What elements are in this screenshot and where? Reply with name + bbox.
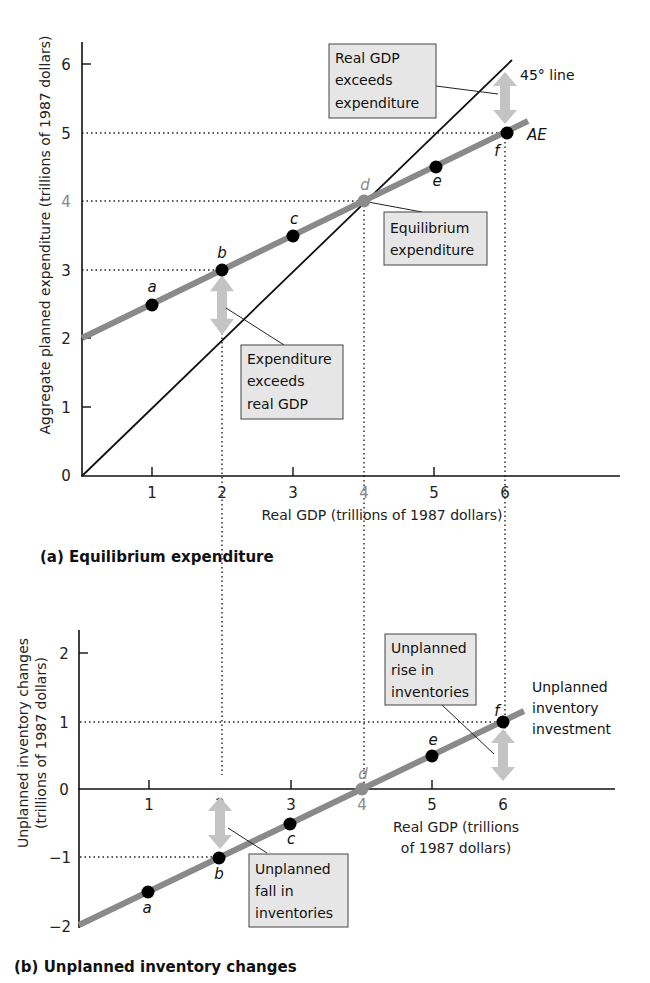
panel-b-title: (b) Unplanned inventory changes [14,958,297,976]
x-tick-label: 3 [288,484,298,502]
y-tick-label: 5 [61,125,71,143]
point-label-c: c [290,210,299,228]
y-axis-title-b-line2: (trillions of 1987 dollars) [33,657,49,829]
point-label-e: e [428,731,437,749]
svg-text:Equilibrium: Equilibrium [390,220,469,236]
gap-arrow-icon [493,72,517,124]
svg-text:exceeds: exceeds [335,72,393,88]
x-tick-label: 1 [147,484,157,502]
svg-text:Expenditure: Expenditure [247,351,332,367]
x-tick-label: 1 [144,796,154,814]
y-tick-label: 2 [59,645,69,663]
svg-text:inventories: inventories [255,905,333,921]
box-unplanned-fall: Unplanned fall in inventories [249,854,348,927]
point-label-d: d [360,176,370,194]
svg-text:expenditure: expenditure [335,95,419,111]
x-tick-label: 4 [357,796,367,814]
x-ticks-a [152,467,434,476]
gap-arrow-icon [210,275,234,335]
point-label-a: a [142,899,151,917]
x-axis-title-b: Real GDP (trillions [393,819,519,835]
gap-arrow-icon [491,729,515,781]
y-tick-label: 0 [61,467,71,485]
y-tick-label: 0 [59,781,69,799]
y-tick-label: 6 [61,56,71,74]
svg-text:fall in: fall in [255,883,294,899]
x-tick-label: 2 [217,484,227,502]
point-label-b: b [214,865,224,883]
x-tick-label: 3 [286,796,296,814]
y-tick-label: 1 [59,714,69,732]
svg-text:real GDP: real GDP [247,396,308,412]
box-unplanned-rise: Unplanned rise in inventories [385,634,476,705]
y-tick-label: 4 [61,193,71,211]
point-label-c: c [287,830,296,848]
box-equilibrium-expenditure: Equilibrium expenditure [384,212,487,265]
svg-text:rise in: rise in [391,662,434,678]
y-tick-label: −1 [49,849,71,867]
y-axis-title-b: Unplanned inventory changes [15,638,31,848]
x-tick-label: 4 [359,484,369,502]
panel-b: 2 1 0 −1 −2 1 2 3 4 5 6 Real GDP (trilli… [14,630,615,976]
y-tick-label: 3 [61,262,71,280]
point-label-a: a [147,278,156,296]
box-expenditure-exceeds: Expenditure exceeds real GDP [241,345,343,419]
y-axis-title-a: Aggregate planned expenditure (trillions… [37,36,53,435]
y-tick-label: −2 [49,918,71,936]
curve-label-line3: investment [532,721,612,737]
svg-text:Real GDP: Real GDP [335,50,400,66]
point-label-b: b [217,244,227,262]
ticks-b [79,653,432,789]
point-label-e: e [432,172,441,190]
svg-text:Unplanned: Unplanned [255,861,331,877]
line-45-label: 45° line [520,67,575,83]
x-axis-title-b-line2: of 1987 dollars) [401,840,511,856]
ae-label: AE [526,126,547,144]
box-real-gdp-exceeds: Real GDP exceeds expenditure [329,44,436,118]
y-ticks-a [82,64,91,407]
gap-arrow-icon [208,797,232,849]
y-tick-label: 2 [61,330,71,348]
x-axis-title-a: Real GDP (trillions of 1987 dollars) [262,507,503,523]
x-tick-label: 6 [500,484,510,502]
x-tick-label: 5 [427,796,437,814]
curve-label-line1: Unplanned [532,679,608,695]
curve-label-line2: inventory [532,700,599,716]
x-tick-label: 5 [429,484,439,502]
svg-text:inventories: inventories [391,684,469,700]
point-label-f: f [494,142,502,160]
y-tick-label: 1 [61,399,71,417]
point-label-d: d [358,765,368,783]
panel-a-title: (a) Equilibrium expenditure [40,548,274,566]
svg-text:exceeds: exceeds [247,373,305,389]
x-tick-label: 6 [498,796,508,814]
panel-a: 6 5 4 3 2 1 0 1 2 3 4 5 6 Real GDP (tril… [37,36,620,790]
svg-text:expenditure: expenditure [390,242,474,258]
svg-text:Unplanned: Unplanned [391,640,467,656]
figure: 6 5 4 3 2 1 0 1 2 3 4 5 6 Real GDP (tril… [0,0,650,983]
